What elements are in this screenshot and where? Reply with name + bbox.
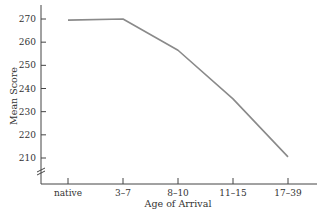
y-tick-label: 250: [19, 60, 36, 70]
line-chart: 210220230240250260270 Mean Score native3…: [0, 0, 329, 216]
mean-score-line: [68, 19, 288, 157]
y-tick-label: 240: [19, 84, 36, 94]
y-tick-label: 220: [19, 130, 36, 140]
x-axis: native3–78–1011–1517–39 Age of Arrival: [41, 178, 317, 209]
y-axis: 210220230240250260270 Mean Score: [8, 5, 46, 184]
x-tick-label: 17–39: [274, 188, 302, 198]
y-tick-label: 210: [19, 153, 36, 163]
y-tick-label: 260: [19, 37, 36, 47]
y-tick-label: 230: [19, 107, 36, 117]
x-tick-label: 3–7: [115, 188, 131, 198]
y-axis-title: Mean Score: [8, 67, 19, 125]
x-tick-label: 11–15: [219, 188, 247, 198]
x-tick-label: 8–10: [167, 188, 189, 198]
x-tick-label: native: [54, 188, 82, 198]
y-tick-label: 270: [19, 14, 36, 24]
x-axis-title: Age of Arrival: [144, 198, 212, 209]
